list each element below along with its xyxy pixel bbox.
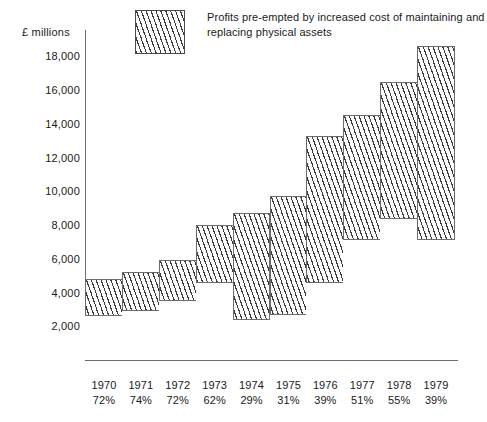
bar-1970	[85, 279, 123, 360]
bar-segment-hatched	[418, 47, 454, 239]
bar-segment-plain	[380, 218, 418, 360]
bar-segment-plain	[417, 239, 455, 360]
bar-1978	[380, 82, 418, 360]
x-tick-year: 1978	[380, 378, 418, 393]
x-tick-percent: 31%	[270, 393, 308, 408]
x-tick-year: 1971	[122, 378, 160, 393]
x-tick-year: 1973	[196, 378, 234, 393]
x-tick-year: 1975	[270, 378, 308, 393]
y-tick-label: 16,000	[2, 84, 80, 96]
x-tick-label-1970: 197072%	[85, 378, 123, 408]
x-tick-year: 1976	[306, 378, 344, 393]
x-tick-percent: 29%	[233, 393, 271, 408]
x-tick-label-1974: 197429%	[233, 378, 271, 408]
bar-segment-hatched	[86, 280, 122, 316]
bar-segment-hatched	[234, 214, 270, 319]
y-tick-label: 4,000	[2, 287, 80, 299]
y-tick-label: 12,000	[2, 152, 80, 164]
bar-1976	[306, 136, 344, 360]
x-tick-percent: 39%	[417, 393, 455, 408]
bar-1973	[196, 225, 234, 360]
bar-segment-plain	[343, 239, 381, 360]
x-tick-label-1979: 197939%	[417, 378, 455, 408]
x-tick-label-1977: 197751%	[343, 378, 381, 408]
bar-1974	[233, 213, 271, 360]
x-tick-year: 1979	[417, 378, 455, 393]
x-tick-year: 1972	[159, 378, 197, 393]
x-axis-line	[85, 360, 458, 361]
chart-figure: £ millions Profits pre-empted by increas…	[0, 0, 487, 422]
bar-segment-hatched	[344, 116, 380, 240]
y-tick-label: 18,000	[2, 50, 80, 62]
bar-segment-plain	[270, 314, 308, 360]
bar-segment-plain	[159, 300, 197, 360]
bar-1971	[122, 272, 160, 360]
x-tick-label-1973: 197362%	[196, 378, 234, 408]
x-tick-year: 1977	[343, 378, 381, 393]
bar-segment-plain	[233, 319, 271, 360]
x-tick-percent: 39%	[306, 393, 344, 408]
x-tick-percent: 74%	[122, 393, 160, 408]
x-tick-label-1976: 197639%	[306, 378, 344, 408]
x-tick-percent: 62%	[196, 393, 234, 408]
x-tick-label-1975: 197531%	[270, 378, 308, 408]
y-tick-label: 14,000	[2, 118, 80, 130]
bar-1975	[270, 196, 308, 360]
x-tick-percent: 55%	[380, 393, 418, 408]
plot-area	[85, 30, 458, 361]
y-tick-label: 8,000	[2, 219, 80, 231]
bar-segment-hatched	[381, 83, 417, 220]
x-tick-percent: 72%	[85, 393, 123, 408]
x-tick-label-1978: 197855%	[380, 378, 418, 408]
bar-1972	[159, 260, 197, 360]
y-tick-label: 6,000	[2, 253, 80, 265]
bar-1979	[417, 46, 455, 360]
x-tick-label-1972: 197272%	[159, 378, 197, 408]
x-tick-label-1971: 197174%	[122, 378, 160, 408]
bar-series-container	[85, 30, 458, 360]
bar-segment-hatched	[271, 197, 307, 315]
y-tick-label: 2,000	[2, 320, 80, 332]
y-tick-label: 10,000	[2, 185, 80, 197]
y-axis-tick-labels: 18,00016,00014,00012,00010,0008,0006,000…	[0, 30, 80, 361]
bar-segment-plain	[122, 310, 160, 360]
x-tick-percent: 51%	[343, 393, 381, 408]
x-tick-year: 1970	[85, 378, 123, 393]
bar-segment-hatched	[160, 261, 196, 301]
bar-segment-hatched	[123, 273, 159, 311]
bar-1977	[343, 115, 381, 360]
bar-segment-hatched	[197, 226, 233, 283]
bar-segment-plain	[306, 282, 344, 360]
x-tick-percent: 72%	[159, 393, 197, 408]
bar-segment-plain	[85, 315, 123, 360]
bar-segment-plain	[196, 282, 234, 360]
x-axis-tick-labels: 197072%197174%197272%197362%197429%19753…	[85, 368, 458, 408]
x-tick-year: 1974	[233, 378, 271, 393]
bar-segment-hatched	[307, 137, 343, 283]
